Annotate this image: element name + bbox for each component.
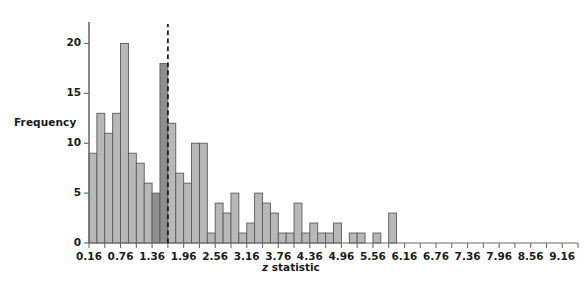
histogram-bar <box>263 203 271 243</box>
histogram-bar <box>357 233 365 243</box>
histogram-bar <box>310 223 318 243</box>
x-axis-tick-label: 9.16 <box>540 250 584 262</box>
histogram-bar <box>231 193 239 243</box>
histogram-bar <box>318 233 326 243</box>
histogram-bar <box>286 233 294 243</box>
histogram-bar <box>160 63 168 243</box>
histogram-bar <box>247 223 255 243</box>
histogram-chart: 05101520 0.160.761.361.962.563.163.764.3… <box>0 0 586 288</box>
histogram-bar <box>128 153 136 243</box>
histogram-bar <box>373 233 381 243</box>
histogram-bar <box>389 213 397 243</box>
y-axis-tick-label: 15 <box>49 86 81 98</box>
histogram-bar <box>278 233 286 243</box>
histogram-bar <box>294 203 302 243</box>
x-axis-title-rest: statistic <box>268 261 320 273</box>
histogram-bar <box>89 153 97 243</box>
histogram-bar <box>144 183 152 243</box>
histogram-bar <box>349 233 357 243</box>
histogram-bar <box>270 213 278 243</box>
bars-group <box>89 43 397 243</box>
histogram-bar <box>176 173 184 243</box>
histogram-bar <box>223 213 231 243</box>
histogram-bar <box>184 183 192 243</box>
histogram-bar <box>192 143 200 243</box>
histogram-bar <box>97 113 105 243</box>
histogram-bar <box>326 233 334 243</box>
histogram-bar <box>121 43 129 243</box>
histogram-bar <box>334 223 342 243</box>
y-axis-title: Frequency <box>14 116 76 128</box>
histogram-bar <box>136 163 144 243</box>
histogram-bar <box>152 193 160 243</box>
histogram-bar <box>239 233 247 243</box>
x-axis-title: z statistic <box>262 261 320 273</box>
histogram-bar <box>105 133 113 243</box>
histogram-bar <box>207 233 215 243</box>
y-axis-tick-label: 20 <box>49 36 81 48</box>
histogram-bar <box>255 193 263 243</box>
histogram-bar <box>302 233 310 243</box>
histogram-bar <box>215 203 223 243</box>
plot-area <box>0 0 586 288</box>
y-axis-tick-label: 0 <box>49 236 81 248</box>
histogram-bar <box>168 123 176 243</box>
histogram-bar <box>199 143 207 243</box>
histogram-bar <box>113 113 121 243</box>
y-axis-tick-label: 10 <box>49 136 81 148</box>
y-axis-tick-label: 5 <box>49 186 81 198</box>
